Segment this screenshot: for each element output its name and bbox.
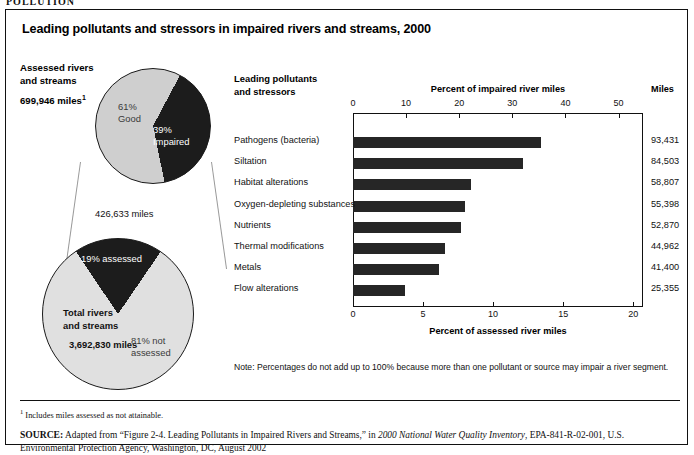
source-publication-title: 2000 National Water Quality Inventory [378, 430, 525, 440]
top-axis-tick-label: 0 [339, 98, 367, 108]
pie-slice-not-assessed-label: 81% not assessed [131, 335, 171, 359]
top-axis-tick-label: 20 [445, 98, 473, 108]
bottom-axis-tick [353, 302, 354, 307]
total-rivers-label-line1: Total rivers [63, 307, 113, 318]
category-label: Habitat alterations [234, 177, 308, 187]
pie-slice-not-assessed-line1: 81% not [131, 335, 165, 346]
miles-value: 25,355 [651, 283, 679, 293]
figure-source: SOURCE: Adapted from “Figure 2-4. Leadin… [20, 428, 682, 455]
top-axis-tick [619, 113, 620, 118]
miles-value: 84,503 [651, 156, 679, 166]
pie-connector-right [211, 162, 227, 269]
pie-slice-impaired-pct: 39% [153, 124, 172, 135]
top-axis-tick-label: 10 [392, 98, 420, 108]
pie-slice-impaired-label: 39% Impaired [153, 124, 189, 148]
footer-divider [20, 400, 680, 401]
miles-value: 44,962 [651, 241, 679, 251]
category-column-header-line1: Leading pollutants [234, 73, 317, 84]
bottom-axis-tick [633, 302, 634, 307]
miles-value: 93,431 [651, 135, 679, 145]
miles-column-header: Miles [651, 84, 674, 94]
miles-value: 52,870 [651, 220, 679, 230]
pie-slice-good-name: Good [118, 113, 141, 124]
connector-miles-value: 426,633 miles [95, 208, 153, 219]
category-label: Siltation [234, 156, 267, 166]
top-axis-tick [459, 113, 460, 118]
pie-chart-assessed-rivers: 61% Good 39% Impaired [95, 68, 211, 184]
miles-value: 55,398 [651, 199, 679, 209]
category-column-header: Leading pollutants and stressors [234, 73, 317, 98]
bar [353, 264, 439, 275]
top-axis-tick-label: 40 [551, 98, 579, 108]
total-rivers-label-line2: and streams [63, 320, 118, 331]
bar [353, 243, 445, 254]
category-column-header-line2: and stressors [234, 86, 296, 97]
category-label: Nutrients [234, 220, 271, 230]
category-label: Flow alterations [234, 283, 298, 293]
source-text-1: Adapted from “Figure 2-4. Leading Pollut… [63, 430, 378, 440]
miles-value: 58,807 [651, 177, 679, 187]
pie-slice-good-label: 61% Good [118, 101, 141, 125]
bottom-axis-tick [493, 302, 494, 307]
pie-slice-impaired-name: Impaired [153, 136, 189, 147]
total-rivers-miles: 3,692,830 miles [69, 339, 137, 350]
chart-note: Note: Percentages do not add up to 100% … [234, 362, 668, 372]
bar [353, 179, 471, 190]
bottom-axis-tick-label: 0 [339, 309, 367, 319]
assessed-rivers-label-line2: and streams [20, 75, 77, 86]
assessed-rivers-label-line1: Assessed rivers [20, 62, 94, 73]
bottom-axis-tick [563, 302, 564, 307]
source-label: SOURCE: [20, 429, 63, 440]
top-axis-title: Percent of impaired river miles [353, 84, 643, 94]
pie-slice-good-pct: 61% [118, 101, 137, 112]
category-label: Oxygen-depleting substances [234, 199, 355, 209]
pie-chart-panel: Assessed rivers and streams 699,946 mile… [6, 10, 234, 390]
category-label: Pathogens (bacteria) [234, 135, 319, 145]
figure-container: Leading pollutants and stressors in impa… [5, 9, 688, 445]
assessed-rivers-label: Assessed rivers and streams [20, 62, 94, 87]
pie-slice-assessed-label: 19% assessed [81, 253, 142, 264]
bar [353, 137, 541, 148]
figure-footnote: 1 Includes miles assessed as not attaina… [20, 408, 163, 420]
total-rivers-label: Total rivers and streams [63, 307, 118, 332]
bottom-axis-tick-label: 10 [479, 309, 507, 319]
top-axis-tick [512, 113, 513, 118]
category-label: Thermal modifications [234, 241, 324, 251]
bar [353, 222, 461, 233]
bar [353, 201, 465, 212]
bottom-axis-tick-label: 5 [409, 309, 437, 319]
assessed-rivers-miles: 699,946 miles1 [20, 94, 86, 106]
assessed-rivers-miles-value: 699,946 miles [20, 95, 82, 106]
pie-slice-not-assessed-line2: assessed [131, 347, 171, 358]
top-axis-tick [565, 113, 566, 118]
footnote-text: Includes miles assessed as not attainabl… [23, 411, 163, 420]
bottom-axis-tick [423, 302, 424, 307]
miles-value: 41,400 [651, 262, 679, 272]
bottom-axis-tick-label: 15 [549, 309, 577, 319]
top-axis-tick [353, 113, 354, 118]
bottom-axis-tick-label: 20 [619, 309, 647, 319]
assessed-miles-footnote-marker: 1 [82, 94, 86, 101]
top-axis-tick-label: 30 [498, 98, 526, 108]
bar [353, 158, 523, 169]
bottom-axis-title: Percent of assessed river miles [353, 326, 643, 336]
category-label: Metals [234, 262, 261, 272]
top-axis-tick-label: 50 [605, 98, 633, 108]
page-running-header: POLLUTION [6, 0, 76, 5]
bar [353, 285, 405, 296]
top-axis-tick [406, 113, 407, 118]
pie-chart-total-rivers: 19% assessed Total rivers and streams 3,… [42, 238, 194, 390]
